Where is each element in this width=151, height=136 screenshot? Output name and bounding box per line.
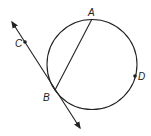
point-a-label: A [87,7,95,18]
diagram-canvas: ABCD [0,0,151,136]
point-c-label: C [15,38,23,49]
point-d-label: D [138,71,145,82]
circle [47,20,137,110]
point-c-dot [23,40,27,44]
chord-ab [55,19,92,90]
geometry-diagram: ABCD [0,0,151,136]
point-d-dot [133,74,137,78]
point-b-label: B [43,92,50,103]
